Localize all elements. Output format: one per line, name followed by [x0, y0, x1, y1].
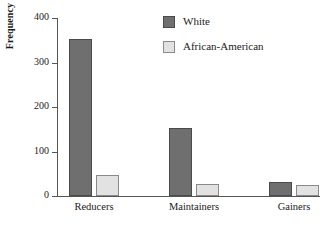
bar: [169, 128, 192, 196]
bar: [269, 182, 292, 196]
y-axis-tick-label: 0: [44, 189, 49, 200]
x-axis-tick-label: Maintainers: [169, 201, 219, 212]
bar: [196, 184, 219, 196]
bar: [69, 39, 92, 196]
x-axis-tick-label: Gainers: [278, 201, 311, 212]
y-axis-line: [57, 18, 58, 197]
y-axis-tick: 400: [52, 18, 57, 19]
y-axis-tick-label: 100: [34, 145, 49, 156]
x-axis-tick-label: Reducers: [74, 201, 113, 212]
bar: [96, 175, 119, 196]
y-axis-tick-label: 400: [34, 11, 49, 22]
y-axis-tick: 0: [52, 196, 57, 197]
y-axis-tick: 300: [52, 63, 57, 64]
y-axis-title: Frequency: [2, 0, 18, 76]
bar-chart: Frequency 0100200300400 ReducersMaintain…: [0, 0, 336, 229]
legend-label: White: [183, 15, 210, 28]
y-axis-tick-label: 200: [34, 100, 49, 111]
y-axis-tick: 200: [52, 107, 57, 108]
legend-swatch-icon: [163, 41, 175, 53]
y-axis-tick-label: 300: [34, 56, 49, 67]
x-axis-line: [57, 196, 320, 197]
y-axis-tick: 100: [52, 152, 57, 153]
legend-label: African-American: [183, 40, 264, 53]
bar: [296, 185, 319, 196]
legend-swatch-icon: [163, 16, 175, 28]
